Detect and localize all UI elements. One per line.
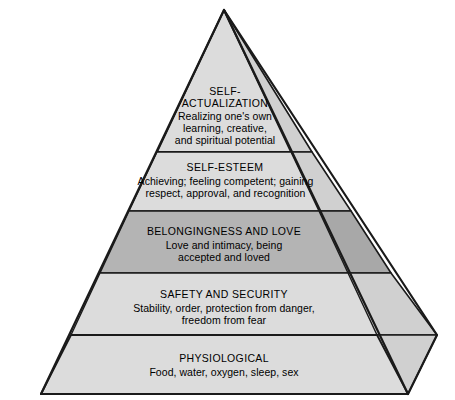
tier-5-description: Realizing one's own learning, creative, … — [140, 110, 310, 147]
tier-2-title: SAFETY AND SECURITY — [114, 288, 334, 300]
pyramid-diagram: SELF- ACTUALIZATION Realizing one's own … — [0, 0, 455, 400]
tier-4-title: SELF-ESTEEM — [150, 161, 300, 173]
tier-3-description: Love and intimacy, being accepted and lo… — [124, 239, 324, 263]
tier-1-title: PHYSIOLOGICAL — [114, 352, 334, 364]
tier-3-title: BELONGINGNESS AND LOVE — [114, 225, 334, 237]
front-tier-1-physiological — [41, 335, 408, 394]
tier-2-description: Stability, order, protection from danger… — [96, 302, 352, 326]
tier-5-title: SELF- ACTUALIZATION — [150, 85, 300, 109]
tier-4-description: Achieving; feeling competent; gaining re… — [118, 175, 333, 199]
pyramid-graphic — [0, 0, 455, 400]
tier-1-description: Food, water, oxygen, sleep, sex — [104, 366, 344, 378]
